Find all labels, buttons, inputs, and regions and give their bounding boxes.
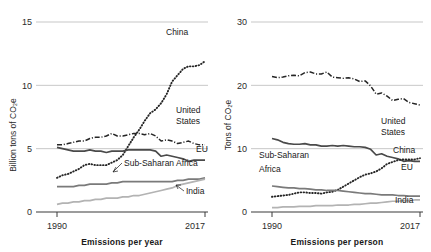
- series-label-eu-left: EU: [196, 144, 208, 154]
- series-label-united-states-left: United: [176, 105, 201, 115]
- y-tick-labels-right: 0102030: [237, 17, 247, 217]
- chart-per-person: 0102030 Tons of CO₂e United States China…: [215, 0, 430, 252]
- x-tick-label-end-right: 2017: [400, 221, 420, 231]
- x-tick-label-start-left: 1990: [47, 221, 67, 231]
- y-tick-label: 15: [22, 17, 32, 27]
- panel-emissions-per-person: 0102030 Tons of CO₂e United States China…: [215, 0, 430, 252]
- series-label-china-left: China: [166, 27, 188, 37]
- gridlines-left: [36, 22, 208, 149]
- leader-sub-saharan-africa-left: [113, 163, 122, 172]
- series-label-china-right: China: [393, 145, 415, 155]
- panel-caption-right: Emissions per person: [291, 237, 384, 247]
- panel-caption-left: Emissions per year: [81, 237, 163, 247]
- series-label-india-right: India: [395, 195, 414, 205]
- y-tick-labels-left: 051015: [22, 17, 32, 217]
- series-lines-left: [57, 61, 205, 204]
- y-tick-label: 20: [237, 81, 247, 91]
- chart-per-year: 051015 Billion tons of CO₂e China United…: [0, 0, 215, 252]
- series-lines-right: [272, 72, 420, 208]
- x-tick-label-start-right: 1990: [262, 221, 282, 231]
- series-label-eu-right: EU: [401, 162, 413, 172]
- y-tick-label: 0: [27, 207, 32, 217]
- y-axis-title-left: Billion tons of CO₂e: [8, 98, 18, 172]
- x-tick-label-end-left: 2017: [185, 221, 205, 231]
- series-label-united-states-left-2: States: [176, 116, 200, 126]
- series-label-united-states-right-2: States: [381, 127, 405, 137]
- series-label-sub-saharan-africa-left: Sub-Saharan Africa: [124, 158, 198, 168]
- series-line-india: [57, 179, 205, 204]
- series-line-sub-saharan-africa: [57, 178, 205, 187]
- y-tick-label: 0: [242, 207, 247, 217]
- y-tick-label: 30: [237, 17, 247, 27]
- series-label-united-states-right: United: [381, 116, 406, 126]
- series-label-sub-saharan-africa-right-2: Africa: [259, 164, 281, 174]
- panel-emissions-per-year: 051015 Billion tons of CO₂e China United…: [0, 0, 215, 252]
- series-label-india-left: India: [186, 186, 205, 196]
- y-tick-label: 10: [22, 81, 32, 91]
- series-line-united-states: [272, 72, 420, 105]
- y-tick-label: 10: [237, 144, 247, 154]
- series-label-sub-saharan-africa-right: Sub-Saharan: [259, 150, 309, 160]
- y-axis-title-right: Tons of CO₂e: [223, 99, 233, 150]
- emissions-figure: 051015 Billion tons of CO₂e China United…: [0, 0, 431, 252]
- y-tick-label: 5: [27, 144, 32, 154]
